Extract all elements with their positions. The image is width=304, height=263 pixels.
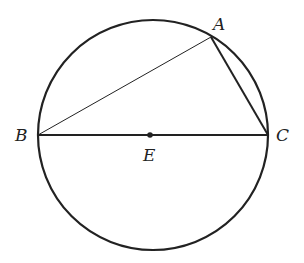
segment-ac [211, 37, 268, 135]
geometry-diagram: A B C E [0, 0, 304, 263]
point-e-dot [147, 132, 153, 138]
diagram-canvas: A B C E [0, 0, 304, 263]
label-b: B [14, 125, 28, 145]
label-e: E [142, 145, 156, 165]
segment-ab [38, 37, 211, 135]
label-c: C [276, 125, 289, 145]
label-a: A [211, 14, 225, 34]
